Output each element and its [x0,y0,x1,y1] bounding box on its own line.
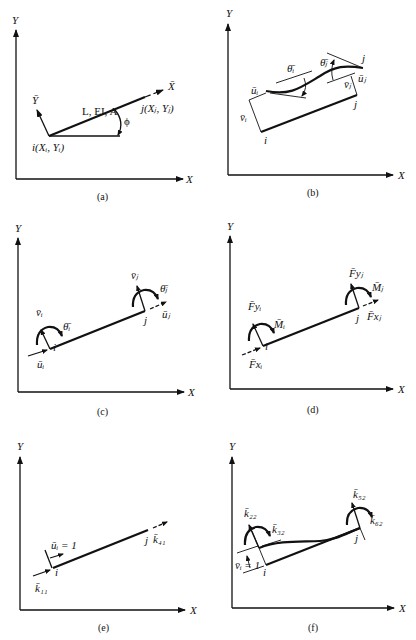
x-axis-label: X [397,383,406,395]
k62-label: k̄₆₂ [370,514,383,526]
F-xj-arrow [363,300,378,306]
k32-moment-arrow [245,527,270,545]
node-i-label: i(Xᵢ, Yᵢ) [32,141,65,154]
node-i-label: i [53,341,56,353]
k52-label: k̄₅₂ [353,488,366,500]
panel-d: Y X F̄yᵢ M̄ᵢ F̄xᵢ i F̄yⱼ M̄ⱼ F̄xⱼ j (d) [227,220,406,416]
caption-d: (d) [307,404,319,416]
panel-b: Y X θ̄ᵢ θ̄ⱼ ūᵢ ūⱼ v̄ᵢ v̄ⱼ i j j (b) [226,7,406,199]
k32-label: k̄₃₂ [272,523,285,535]
k11-arrow [33,570,50,576]
tangent-i [270,93,306,98]
caption-a: (a) [97,191,108,203]
node-j-label: j(Xⱼ, Yⱼ) [139,102,174,115]
k62-moment-arrow [347,508,372,525]
k22-label: k̄₂₂ [244,507,257,519]
y-axis-label: Y [12,14,20,26]
u-i-label: ūᵢ [37,358,45,370]
M-j-moment-arrow [346,288,371,305]
unit-displacement-label: ūᵢ = 1 [51,539,77,551]
angle-label: ϕ [124,115,130,127]
local-x-label: X̄ [167,80,176,92]
theta-i-label: θ̄ᵢ [287,62,295,74]
k52-arrow [352,503,360,528]
node-j-label: j [143,534,148,546]
y-axis-label: Y [227,220,235,232]
theta-j-label: θ̄ⱼ [160,282,168,294]
v-j-label: v̄ⱼ [131,269,139,281]
local-y-axis [37,110,49,136]
x-axis-label: X [185,173,194,185]
F-yi-label: F̄yᵢ [247,300,262,312]
panel-a: Y X X̄ Ȳ L, EI, A j(Xⱼ, Yⱼ) i(Xᵢ, Yᵢ) ϕ … [12,14,194,203]
theta-i-label: θ̄ᵢ [63,320,71,332]
caption-c: (c) [97,406,108,418]
end-section-j [360,528,365,540]
node-j-label: j [353,532,358,544]
unit-displacement-tick [45,550,52,568]
x-axis-label: X [398,602,407,614]
y-axis-label: Y [17,440,25,452]
y-axis-label: Y [15,222,23,234]
node-i-label: i [263,566,266,578]
unit-displacement-arrow [50,554,63,558]
panel-e: Y X ūᵢ = 1 k̄₁₁ k̄₄₁ i j (e) [17,440,198,634]
node-j-label: j [142,314,147,326]
caption-f: (f) [308,622,318,634]
v-j-offset-line [351,76,357,95]
theta-i-rotation-arrow [37,327,62,345]
y-axis-label: Y [226,7,234,19]
M-i-label: M̄ᵢ [273,318,285,330]
node-i-label: i [265,340,268,352]
theta-j-label: θ̄ⱼ [320,56,328,68]
panel-f: Y X k̄₂₂ k̄₃₂ v̄ᵢ = 1 i k̄₅₂ k̄₆₂ j (f) [229,440,407,634]
v-i-arrow [41,330,50,349]
theta-j-rotation-arrow [133,290,158,307]
v-i-offset-line [249,100,261,132]
unit-displacement-label: v̄ᵢ = 1 [235,559,260,571]
dimension-top [237,546,258,553]
x-axis-label: X [189,604,198,616]
y-axis-label: Y [229,440,237,452]
v-i-label: v̄ᵢ [36,306,43,318]
M-j-label: M̄ⱼ [371,281,384,293]
node-i-label: i [55,566,58,578]
node-j-label: j [352,98,357,110]
F-yj-label: F̄yⱼ [348,267,364,279]
node-j-deformed-label: j [360,52,365,64]
local-x-axis [145,90,163,97]
caption-e: (e) [98,622,109,634]
node-i-label: i [264,134,267,146]
node-j-label: j [354,312,359,324]
v-i-label: v̄ᵢ [240,111,247,123]
beam-element-figure: Y X X̄ Ȳ L, EI, A j(Xⱼ, Yⱼ) i(Xᵢ, Yᵢ) ϕ … [0,0,416,640]
member-properties-label: L, EI, A [82,105,117,117]
F-xi-label: F̄xᵢ [248,358,263,370]
F-xi-arrow [242,348,260,355]
M-i-moment-arrow [249,324,274,341]
v-j-label: v̄ⱼ [344,78,352,90]
undeformed-member [261,95,357,132]
k41-arrow [153,522,167,528]
x-axis-label: X [187,386,196,398]
F-xj-label: F̄xⱼ [366,310,382,322]
caption-b: (b) [307,187,319,199]
u-j-label: ūⱼ [358,72,367,84]
x-axis-label: X [397,169,406,181]
k41-label: k̄₄₁ [153,533,166,545]
u-i-arrow [28,350,47,356]
u-j-label: ūⱼ [162,308,171,320]
u-i-label: ūᵢ [251,84,259,96]
k11-label: k̄₁₁ [35,582,48,594]
local-y-label: Ȳ [32,94,40,106]
panel-c: Y X v̄ᵢ θ̄ᵢ ūᵢ i v̄ⱼ θ̄ⱼ ūⱼ j (c) [15,222,196,418]
